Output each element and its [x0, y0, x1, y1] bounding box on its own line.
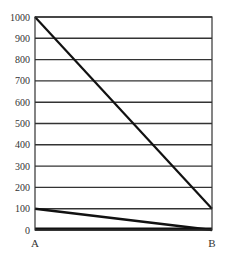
series-line [35, 209, 212, 230]
y-tick-label: 800 [15, 54, 30, 65]
y-tick-label: 100 [15, 203, 30, 214]
y-tick-label: 0 [25, 225, 30, 236]
y-tick-label: 400 [15, 139, 30, 150]
y-axis-labels: 01002003004005006007008009001000 [10, 12, 30, 236]
series-line [35, 17, 212, 209]
y-tick-label: 200 [15, 182, 30, 193]
y-tick-label: 600 [15, 97, 30, 108]
y-tick-label: 700 [15, 75, 30, 86]
y-tick-label: 500 [15, 118, 30, 129]
x-tick-label: A [31, 237, 39, 249]
y-tick-label: 900 [15, 33, 30, 44]
y-tick-label: 300 [15, 161, 30, 172]
y-tick-label: 1000 [10, 12, 30, 23]
gridlines [35, 17, 212, 230]
x-tick-label: B [208, 237, 215, 249]
x-axis-labels: AB [31, 237, 216, 249]
line-chart: 01002003004005006007008009001000 AB [0, 0, 226, 263]
